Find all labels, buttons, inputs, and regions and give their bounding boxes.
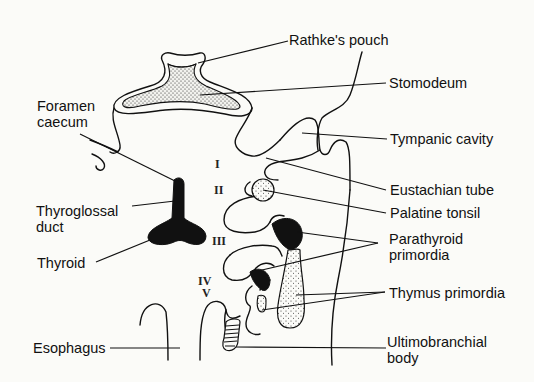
rathkes-pouch-shape xyxy=(114,53,252,116)
oral-outline-left xyxy=(110,108,120,153)
pharynx-wall-right xyxy=(331,190,350,365)
ultimobranchial-body-shape xyxy=(223,319,240,351)
label-thyroid: Thyroid xyxy=(37,255,85,271)
parathyroid-iii-shape xyxy=(272,218,302,250)
label-ultimobranchial-body: Ultimobranchial body xyxy=(387,334,487,366)
pharyngeal-pouch-diagram: Rathke's pouch Stomodeum Foramen caecum … xyxy=(0,0,534,382)
label-tympanic-cavity: Tympanic cavity xyxy=(390,131,493,147)
pouch-numeral-iii: III xyxy=(212,235,226,247)
label-stomodeum: Stomodeum xyxy=(389,75,467,91)
parathyroid-iv-shape xyxy=(250,269,270,290)
label-eustachian-tube: Eustachian tube xyxy=(390,182,494,198)
pouch-numeral-v: V xyxy=(202,287,211,299)
pharyngeal-fold-left xyxy=(90,140,118,170)
label-parathyroid-primordia: Parathyroid primordia xyxy=(389,231,463,263)
pouch-iv xyxy=(246,286,260,335)
pouch-numeral-ii: II xyxy=(214,184,223,196)
label-thymus-primordia: Thymus primordia xyxy=(389,285,505,301)
label-rathkes-pouch: Rathke's pouch xyxy=(289,32,389,48)
esophagus-left-wall xyxy=(140,304,168,360)
pouch-numeral-i: I xyxy=(215,158,220,170)
thyroid-shape xyxy=(148,178,206,245)
label-palatine-tonsil: Palatine tonsil xyxy=(390,205,480,221)
label-foramen-caecum: Foramen caecum xyxy=(37,98,95,130)
label-thyroglossal-duct: Thyroglossal duct xyxy=(36,203,118,235)
first-pouch xyxy=(280,118,350,190)
leader-lines xyxy=(80,41,387,348)
label-esophagus: Esophagus xyxy=(33,340,106,356)
